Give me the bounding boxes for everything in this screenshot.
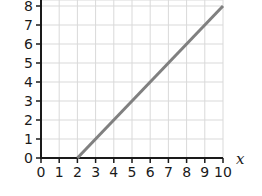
y-tick-label: 3: [24, 93, 33, 109]
y-tick-label: 8: [24, 0, 33, 14]
x-tick-label: 10: [214, 164, 232, 180]
x-tick-label: 1: [55, 164, 64, 180]
y-tick-label: 2: [24, 112, 33, 128]
x-tick-label: 8: [182, 164, 191, 180]
y-tick-label: 1: [24, 131, 33, 147]
y-tick-label: 7: [24, 17, 33, 33]
y-tick-label: 0: [24, 150, 33, 166]
x-tick-label: 0: [37, 164, 46, 180]
x-tick-label: 9: [200, 164, 209, 180]
x-tick-label: 4: [109, 164, 118, 180]
x-tick-label: 6: [146, 164, 155, 180]
x-tick-label: 5: [128, 164, 137, 180]
x-axis-label: x: [236, 150, 245, 168]
y-tick-label: 6: [24, 36, 33, 52]
y-tick-label: 4: [24, 74, 33, 90]
x-tick-label: 7: [164, 164, 173, 180]
x-tick-label: 3: [91, 164, 100, 180]
x-tick-label: 2: [73, 164, 82, 180]
chart: 012345678910012345678x: [0, 0, 262, 196]
y-tick-label: 5: [24, 55, 33, 71]
